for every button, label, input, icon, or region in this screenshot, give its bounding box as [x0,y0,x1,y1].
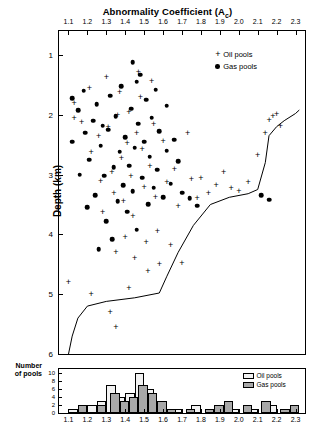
oil-pool-point: + [142,237,151,246]
chart-title: Abnormality Coefficient (Ac) [0,6,335,19]
oil-pool-point: + [85,83,94,92]
histogram-y-tick-mark [59,381,62,382]
gas-pool-point [142,139,147,144]
gas-pool-point [157,129,162,134]
oil-pool-point: + [125,284,134,293]
gas-pool-point [108,93,113,98]
oil-pool-point: + [170,164,179,173]
oil-pool-point: + [193,194,202,203]
oil-pool-point: + [117,153,126,162]
x-axis-tick-label: 1.3 [101,18,111,25]
histogram-x-tick-label: 2.1 [253,416,263,423]
gas-pool-point [70,96,75,101]
histogram-x-tick-mark [182,409,183,413]
chart-title-text: Abnormality Coefficient (A [103,6,225,17]
oil-pool-point: + [102,73,111,82]
histogram-legend-label-oil: Oil pools [257,372,282,379]
histogram-y-tick-label: 8 [52,378,55,384]
oil-pool-point: + [119,197,128,206]
x-axis-tick-label: 2.1 [253,18,263,25]
gas-pool-point [172,138,177,143]
gas-pool-point [148,154,153,159]
oil-pool-point: + [143,267,152,276]
y-axis-tick-label: 3 [49,170,53,179]
oil-pool-point: + [183,128,192,137]
oil-pool-point: + [151,193,160,202]
y-axis-label: Depth (km) [52,165,63,217]
x-axis-tick-label: 1.6 [158,18,168,25]
y-axis-tick-label: 2 [49,110,53,119]
histogram-x-tick-mark [277,409,278,413]
histogram-bar-gas [186,409,195,413]
histogram-bar-gas [280,409,289,413]
scatter-legend: +Oil poolsGas pools [212,50,257,74]
oil-pool-point: + [98,207,107,216]
y-axis-tick-label: 6 [49,350,53,359]
histogram-legend-label-gas: Gas pools [257,381,286,388]
gas-pool-point [78,172,83,177]
gas-pool-point [259,193,264,198]
histogram-x-tick-label: 1.8 [196,416,206,423]
histogram-y-tick-label: 6 [52,386,55,392]
histogram-x-tick-mark [68,409,69,413]
oil-pool-point: + [87,147,96,156]
histogram-y-tick-mark [59,373,62,374]
gas-pool-point [165,103,170,108]
gas-pool-point [195,203,200,208]
oil-pool-point: + [149,120,158,129]
histogram-x-tick-label: 1.4 [120,416,130,423]
histogram-x-tick-label: 1.9 [215,416,225,423]
x-axis-tick-label: 1.1 [64,18,74,25]
oil-pool-point: + [147,77,156,86]
histogram-y-axis-label: Number of pools [2,362,42,378]
histogram-y-tick-mark [59,397,62,398]
gas-pool-point [134,80,139,85]
dot-icon [212,64,223,69]
histogram-bar-gas [243,405,252,413]
histogram-y-tick-label: 0 [52,410,55,416]
oil-pool-point: + [219,167,228,176]
gas-pool-point [151,185,156,190]
gas-pool-point [187,196,192,201]
histogram-x-tick-mark [258,409,259,413]
oil-pool-point: + [261,128,270,137]
gas-pool-point [117,150,122,155]
histogram-x-tick-label: 2.3 [291,416,301,423]
oil-pool-point: + [166,241,175,250]
swatch-gas-icon [243,382,254,388]
histogram-bar-gas [129,397,138,413]
gas-pool-point [161,195,166,200]
oil-pool-point: + [138,145,147,154]
gas-pool-point [149,115,154,120]
oil-pool-point: + [77,117,86,126]
gas-pool-point [138,72,143,77]
oil-pool-point: + [140,182,149,191]
gas-pool-point [104,219,109,224]
histogram-x-tick-mark [220,409,221,413]
gas-pool-point [93,193,98,198]
oil-pool-point: + [109,188,118,197]
chart-figure: Abnormality Coefficient (Ac) +++++++++++… [0,0,335,442]
histogram-x-tick-mark [87,409,88,413]
gas-pool-point [127,163,132,168]
histogram-bar-gas [261,401,270,413]
oil-pool-point: + [128,212,137,221]
y-axis-tick-label: 5 [49,290,53,299]
gas-pool-point [98,144,103,149]
oil-pool-point: + [153,227,162,236]
gas-pool-point [81,89,86,94]
oil-pool-point: + [111,248,120,257]
histogram-plot-area: Oil poolsGas pools [59,369,305,413]
oil-pool-point: + [244,177,253,186]
gas-pool-point [96,247,101,252]
x-axis-tick-label: 1.7 [177,18,187,25]
gas-pool-point [76,108,81,113]
x-axis-tick-label: 1.4 [120,18,130,25]
gas-pool-point [123,135,128,140]
oil-pool-point: + [111,323,120,332]
gas-pool-point [85,205,90,210]
gas-pool-point [95,102,100,107]
x-axis-tick-label: 2.3 [291,18,301,25]
histogram-bar-gas [224,401,233,413]
histogram-bar-gas [148,393,157,413]
